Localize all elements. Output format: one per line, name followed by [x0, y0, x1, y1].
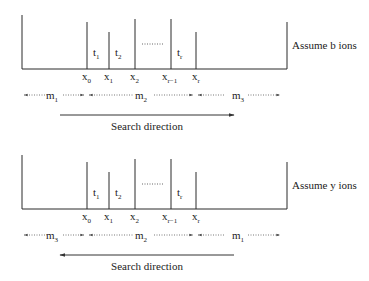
segment-label-m3: m3 [46, 229, 59, 244]
panel-b-ions: t1 t2 tr x0 x1 x2 xr−1 xr Assume b ions [22, 15, 357, 132]
x-label-1: x1 [104, 210, 114, 225]
gap-label-t1: t1 [93, 46, 100, 61]
spectrum-peaks [22, 155, 287, 209]
search-direction-label: Search direction [111, 120, 183, 132]
panel-label: Assume b ions [292, 39, 357, 51]
gap-label-t2: t2 [115, 186, 122, 201]
segment-label-m2: m2 [135, 229, 148, 244]
x-label-r: xr [192, 210, 201, 225]
x-label-2: x2 [130, 70, 140, 85]
segment-label-m1: m1 [46, 89, 59, 104]
diagram-canvas: t1 t2 tr x0 x1 x2 xr−1 xr Assume b ions [0, 0, 369, 281]
panel-y-ions: t1 t2 tr x0 x1 x2 xr−1 xr Assume y ions [22, 155, 357, 272]
x-label-0: x0 [82, 70, 92, 85]
segment-label-m2: m2 [135, 89, 148, 104]
gap-label-tr: tr [177, 46, 183, 61]
gap-label-t2: t2 [115, 46, 122, 61]
x-label-r-minus-1: xr−1 [162, 70, 178, 85]
x-label-1: x1 [104, 70, 114, 85]
segment-label-m1: m1 [232, 229, 245, 244]
x-label-0: x0 [82, 210, 92, 225]
x-label-2: x2 [130, 210, 140, 225]
x-label-r: xr [192, 70, 201, 85]
spectrum-peaks [22, 15, 287, 69]
search-direction-label: Search direction [111, 260, 183, 272]
gap-label-t1: t1 [93, 186, 100, 201]
panel-label: Assume y ions [292, 179, 357, 191]
x-label-r-minus-1: xr−1 [162, 210, 178, 225]
segment-label-m3: m3 [232, 89, 245, 104]
gap-label-tr: tr [177, 186, 183, 201]
